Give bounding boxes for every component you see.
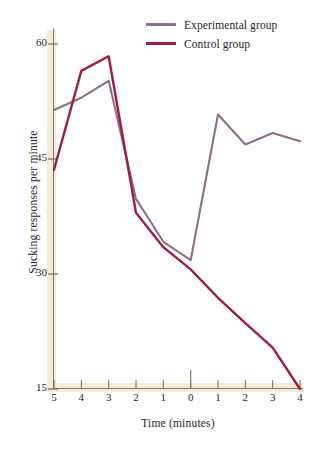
x-tick-label: 1 (208, 391, 228, 403)
x-tick-label: 3 (263, 391, 283, 403)
x-tick-label: 4 (290, 391, 310, 403)
chart-legend: Experimental group Control group (146, 16, 316, 54)
legend-swatch-icon-control (146, 42, 176, 45)
x-tick-label: 5 (44, 391, 64, 403)
legend-label-experimental: Experimental group (184, 19, 277, 31)
x-tick-label: 4 (71, 391, 91, 403)
x-tick-label: 3 (99, 391, 119, 403)
legend-label-control: Control group (184, 38, 250, 50)
y-axis-title: Sucking responses per minute (27, 102, 39, 302)
legend-swatch-icon-experimental (146, 23, 176, 26)
legend-item-control-group: Control group (146, 35, 316, 52)
x-tick-label: 0 (181, 391, 201, 403)
x-tick-label: 2 (126, 391, 146, 403)
legend-item-experimental-group: Experimental group (146, 16, 316, 33)
x-axis-title: Time (minutes) (54, 417, 302, 429)
x-tick-label: 1 (153, 391, 173, 403)
x-tick-label: 2 (235, 391, 255, 403)
x-tick-labels: 5432101234 (0, 0, 322, 450)
chart-figure: 15304560 5432101234 Sucking responses pe… (0, 0, 322, 450)
